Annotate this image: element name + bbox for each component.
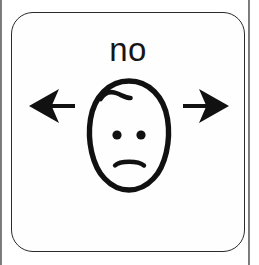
pictogram-card[interactable]: no [11, 12, 245, 252]
mouth [115, 162, 144, 166]
right-eye [136, 130, 145, 139]
symbol-drawing [12, 77, 246, 247]
card-caption: no [12, 33, 244, 66]
left-arrow-icon [29, 89, 75, 123]
face-icon [89, 81, 168, 190]
left-eye [112, 130, 121, 139]
right-arrow-icon [183, 89, 229, 123]
scan-edge-right [248, 0, 250, 265]
scan-edge-left [0, 0, 2, 265]
pictogram-page: no [0, 0, 259, 265]
